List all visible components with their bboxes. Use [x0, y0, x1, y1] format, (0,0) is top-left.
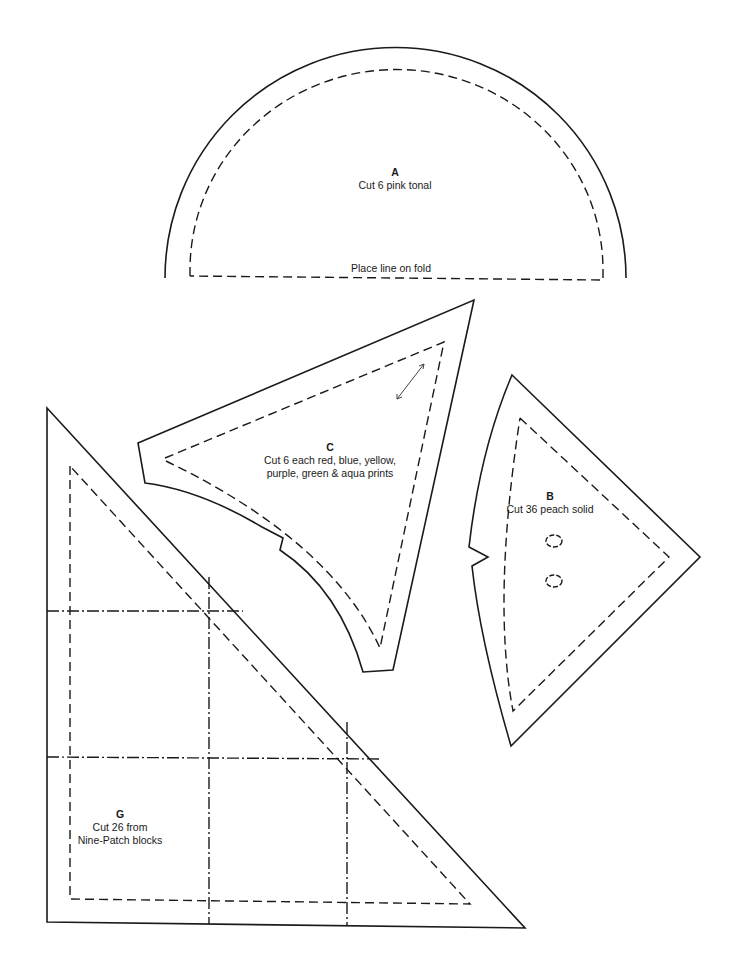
piece-b [469, 375, 700, 746]
piece-b-seam-line [504, 418, 669, 711]
piece-b-cut-line [469, 375, 700, 746]
piece-a [165, 48, 626, 281]
cut-instruction: Cut 26 from [65, 821, 175, 834]
piece-a-label: A Cut 6 pink tonal [330, 166, 460, 192]
placement-dot-icon [546, 575, 562, 587]
cut-instruction: purple, green & aqua prints [238, 467, 422, 480]
grain-arrow-icon [397, 364, 424, 399]
cut-instruction: Cut 36 peach solid [495, 503, 605, 516]
piece-a-cut-line [165, 48, 626, 279]
piece-b-label: B Cut 36 peach solid [495, 490, 605, 516]
fold-line-label: Place line on fold [349, 262, 433, 274]
piece-c-cut-line [138, 300, 474, 672]
piece-c-seam-line [165, 342, 444, 648]
piece-c [138, 300, 474, 672]
piece-g-label: G Cut 26 from Nine-Patch blocks [65, 808, 175, 847]
piece-letter: G [65, 808, 175, 821]
piece-g [47, 408, 525, 928]
cut-instruction: Nine-Patch blocks [65, 834, 175, 847]
piece-g-cut-line [47, 408, 525, 928]
piece-letter: C [238, 441, 422, 454]
placement-dot-icon [546, 535, 562, 547]
piece-c-label: C Cut 6 each red, blue, yellow, purple, … [238, 441, 422, 480]
cut-instruction: Cut 6 each red, blue, yellow, [238, 454, 422, 467]
piece-letter: B [495, 490, 605, 503]
grid-line [47, 757, 380, 759]
cut-instruction: Cut 6 pink tonal [330, 179, 460, 192]
piece-letter: A [330, 166, 460, 179]
